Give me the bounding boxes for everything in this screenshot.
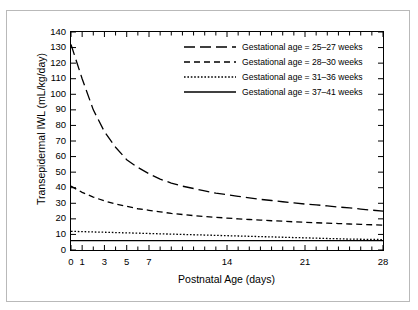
x-tick-label: 7 [134,257,164,267]
y-axis-title: Transepidermal IWL (mL/kg/day) [35,29,47,229]
legend-line-swatch [183,87,237,97]
legend-label: Gestational age = 28–30 weeks [242,57,363,67]
x-tick-label: 14 [212,257,242,267]
legend-item[interactable]: Gestational age = 37–41 weeks [183,84,388,99]
legend-label: Gestational age = 37–41 weeks [242,87,363,97]
legend-line-swatch [183,72,237,82]
y-tick-label: 0 [38,245,66,255]
page-root: 0102030405060708090100110120130140 01357… [0,0,418,310]
x-tick-label: 21 [290,257,320,267]
y-tick-label: 10 [38,229,66,239]
legend-label: Gestational age = 25–27 weeks [242,42,363,52]
legend-item[interactable]: Gestational age = 31–36 weeks [183,69,388,84]
legend-label: Gestational age = 31–36 weeks [242,72,363,82]
legend-item[interactable]: Gestational age = 25–27 weeks [183,39,388,54]
x-axis-title: Postnatal Age (days) [70,273,383,285]
chart-legend: Gestational age = 25–27 weeksGestational… [183,39,388,99]
legend-line-swatch [183,42,237,52]
legend-item[interactable]: Gestational age = 28–30 weeks [183,54,388,69]
legend-line-swatch [183,57,237,67]
figure-container: 0102030405060708090100110120130140 01357… [7,11,409,291]
plot-area: 0102030405060708090100110120130140 01357… [7,11,409,291]
x-tick-label: 28 [368,257,398,267]
